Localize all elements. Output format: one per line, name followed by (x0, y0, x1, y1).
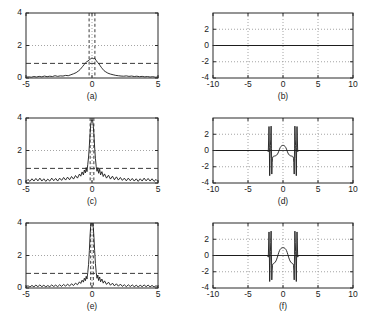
y-tick-label: 2 (204, 129, 209, 139)
x-tick-label: 5 (316, 289, 321, 299)
y-tick-label: -2 (201, 266, 209, 276)
x-tick-label: 5 (156, 79, 161, 89)
x-tick-label: 0 (281, 79, 286, 89)
x-tick-label: 5 (156, 289, 161, 299)
figure-container: 024-505(a)-4-202-10-50510(b)024-505(c)-4… (0, 0, 371, 317)
x-tick-label: 0 (281, 184, 286, 194)
y-tick-label: 2 (204, 24, 209, 34)
plot-svg-c: 024-505 (2, 110, 166, 207)
x-tick-label: 10 (348, 79, 358, 89)
panel-caption-f: (f) (263, 301, 303, 311)
plot-svg-d: -4-202-10-50510 (189, 110, 361, 207)
x-tick-label: 5 (156, 184, 161, 194)
y-tick-label: -2 (201, 161, 209, 171)
plot-svg-b: -4-202-10-50510 (189, 5, 361, 102)
x-tick-label: 0 (90, 79, 95, 89)
x-tick-label: -5 (244, 79, 252, 89)
plot-panel-b: -4-202-10-50510 (189, 5, 361, 102)
x-tick-label: 0 (90, 184, 95, 194)
x-tick-label: 0 (90, 289, 95, 299)
x-tick-label: 5 (316, 184, 321, 194)
plot-panel-e: 024-505 (2, 215, 166, 312)
panel-caption-e: (e) (72, 301, 112, 311)
x-tick-label: -5 (244, 184, 252, 194)
x-tick-label: -5 (22, 79, 30, 89)
plot-svg-f: -4-202-10-50510 (189, 215, 361, 312)
x-tick-label: -5 (22, 184, 30, 194)
plot-svg-a: 024-505 (2, 5, 166, 102)
panel-caption-c: (c) (72, 196, 112, 206)
y-tick-label: 4 (17, 217, 22, 227)
x-tick-label: -5 (22, 289, 30, 299)
y-tick-label: 4 (17, 112, 22, 122)
panel-caption-d: (d) (263, 196, 303, 206)
y-tick-label: 4 (17, 7, 22, 17)
y-tick-label: 2 (17, 145, 22, 155)
x-tick-label: -10 (207, 289, 220, 299)
y-tick-label: 0 (204, 250, 209, 260)
y-tick-label: 2 (17, 40, 22, 50)
y-tick-label: 2 (17, 250, 22, 260)
y-tick-label: 0 (204, 145, 209, 155)
panel-caption-b: (b) (263, 91, 303, 101)
panel-caption-a: (a) (72, 91, 112, 101)
plot-svg-e: 024-505 (2, 215, 166, 312)
x-tick-label: -10 (207, 79, 220, 89)
x-tick-label: 5 (316, 79, 321, 89)
x-tick-label: 0 (281, 289, 286, 299)
plot-panel-d: -4-202-10-50510 (189, 110, 361, 207)
x-tick-label: -5 (244, 289, 252, 299)
plot-panel-c: 024-505 (2, 110, 166, 207)
y-tick-label: 2 (204, 234, 209, 244)
y-tick-label: 0 (204, 40, 209, 50)
x-tick-label: -10 (207, 184, 220, 194)
plot-panel-f: -4-202-10-50510 (189, 215, 361, 312)
plot-panel-a: 024-505 (2, 5, 166, 102)
x-tick-label: 10 (348, 184, 358, 194)
y-tick-label: -2 (201, 56, 209, 66)
x-tick-label: 10 (348, 289, 358, 299)
